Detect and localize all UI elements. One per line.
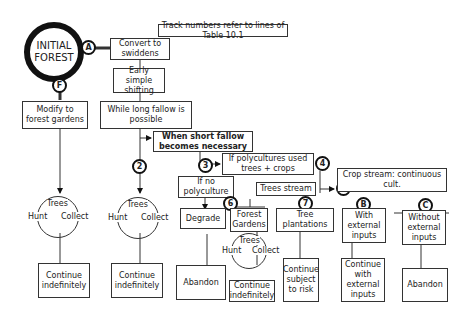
hunt-collect-cycle-2: TreesHuntCollect [110, 197, 164, 251]
initial-forest-node: INITIAL FOREST [24, 22, 84, 82]
forest-gardens-box: Forest Gardens [230, 208, 268, 232]
abandon-box-2: Abandon [402, 268, 448, 302]
continue-risk-box: Continue subject to risk [283, 258, 319, 302]
with-inputs-box: With external inputs [342, 208, 386, 243]
early-box: Early simple shifting [113, 68, 165, 93]
track-marker-a: A [81, 40, 96, 55]
polycultures-box: If polycultures used trees + crops [222, 153, 314, 175]
track-marker-4: 4 [315, 156, 330, 171]
hunt-collect-cycle-3: TreesHuntCollect [224, 233, 278, 287]
crop-stream-box: Crop stream: continuous cult. [337, 168, 447, 192]
trees-stream-box: Trees stream [256, 182, 316, 196]
long-fallow-box: While long fallow is possible [100, 101, 192, 129]
continue-inputs-box: Continue with external inputs [341, 258, 385, 302]
continue-box-1: Continue indefinitely [38, 263, 90, 298]
track-marker-f: F [52, 78, 67, 93]
degrade-box: Degrade [180, 208, 226, 229]
abandon-box-1: Abandon [176, 265, 226, 300]
hunt-collect-cycle-1: TreesHuntCollect [30, 196, 84, 250]
modify-box: Modify to forest gardens [22, 101, 88, 129]
note-box: Track numbers refer to lines of Table 10… [158, 24, 288, 37]
tree-plantations-box: Tree plantations [276, 208, 334, 232]
short-fallow-box: When short fallow becomes necessary [153, 131, 253, 152]
continue-box-3: Continue indefinitely [229, 280, 275, 302]
convert-box: Convert to swiddens [110, 38, 170, 60]
no-poly-box: If no polyculture [178, 176, 234, 198]
continue-box-2: Continue indefinitely [111, 263, 163, 298]
without-inputs-box: Without external inputs [402, 210, 446, 245]
track-marker-3: 3 [198, 158, 213, 173]
track-marker-2: 2 [132, 159, 147, 174]
